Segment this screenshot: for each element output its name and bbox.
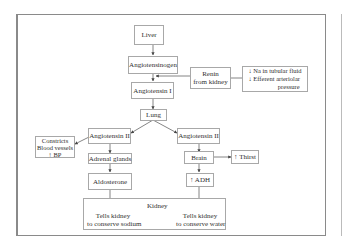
- node-angiotensin-ii-left-label: Angiotensin II: [89, 132, 130, 140]
- node-angiotensin-ii-right: Angiotensin II: [177, 128, 220, 144]
- node-brain: Brain: [184, 151, 214, 164]
- node-angiotensin-i-label: Angiotensin I: [133, 87, 171, 95]
- node-constricts: Constricts Blood vessels ↑ BP: [35, 136, 75, 158]
- node-adrenal-glands-label: Adrenal glands: [89, 155, 132, 163]
- node-stimuli: ↓ Na in tubular fluid ↓ Efferent arterio…: [242, 66, 308, 92]
- kidney-water: Tells kidney to conserve water: [176, 212, 224, 228]
- node-kidney: Kidney Tells kidney to conserve sodium T…: [83, 198, 226, 230]
- stimuli-line-3: pressure: [248, 83, 301, 91]
- node-adh-label: ↑ ADH: [190, 176, 210, 184]
- renin-line-2: from kidney: [193, 78, 227, 86]
- kidney-water-line-2: to conserve water: [176, 220, 224, 228]
- kidney-title: Kidney: [147, 202, 168, 210]
- kidney-sodium: Tells kidney to conserve sodium: [87, 212, 139, 228]
- node-adrenal-glands: Adrenal glands: [88, 153, 132, 164]
- constricts-line-1: Constricts: [37, 137, 73, 144]
- node-angiotensinogen-label: Angiotensinogen: [129, 61, 177, 69]
- kidney-sodium-line-2: to conserve sodium: [87, 220, 139, 228]
- node-liver: Liver: [134, 25, 164, 45]
- node-lung-label: Lung: [146, 111, 161, 119]
- node-renin: Renin from kidney: [190, 67, 231, 89]
- node-adh: ↑ ADH: [186, 173, 214, 187]
- node-angiotensin-ii-left: Angiotensin II: [88, 128, 131, 144]
- kidney-water-line-1: Tells kidney: [176, 212, 224, 220]
- constricts-line-3: ↑ BP: [37, 151, 73, 158]
- node-angiotensinogen: Angiotensinogen: [128, 56, 178, 74]
- node-aldosterone-label: Aldosterone: [93, 178, 127, 186]
- node-aldosterone: Aldosterone: [88, 173, 132, 190]
- stimuli-line-1: ↓ Na in tubular fluid: [248, 67, 301, 75]
- node-lung: Lung: [140, 109, 167, 121]
- stimuli-line-2: ↓ Efferent arteriolar: [248, 75, 301, 83]
- node-angiotensin-i: Angiotensin I: [131, 82, 174, 99]
- node-liver-label: Liver: [141, 31, 156, 39]
- node-brain-label: Brain: [191, 154, 207, 162]
- node-thirst-label: ↑ Thirst: [234, 153, 256, 161]
- constricts-line-2: Blood vessels: [37, 144, 73, 151]
- node-angiotensin-ii-right-label: Angiotensin II: [178, 132, 219, 140]
- kidney-sodium-line-1: Tells kidney: [87, 212, 139, 220]
- node-thirst: ↑ Thirst: [231, 150, 259, 164]
- renin-line-1: Renin: [193, 70, 227, 78]
